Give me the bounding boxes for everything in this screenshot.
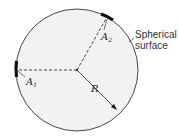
- area-patch-a1: [16, 61, 17, 77]
- label-spherical: Spherical: [135, 29, 177, 40]
- label-radius: R: [90, 83, 99, 94]
- label-surface: surface: [135, 40, 168, 51]
- sphere-diagram: A1 A2 R Spherical surface: [0, 0, 179, 138]
- center-point: [76, 69, 78, 71]
